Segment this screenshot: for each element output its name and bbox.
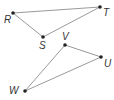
- label-s: S: [39, 40, 46, 51]
- point-v: [63, 43, 67, 47]
- point-w: [23, 89, 27, 93]
- label-u: U: [104, 58, 112, 69]
- point-u: [99, 55, 103, 59]
- triangle-rst: R S T: [4, 5, 110, 51]
- triangle-uvw-edges: [25, 45, 101, 91]
- triangle-rst-edges: [13, 7, 100, 37]
- triangle-uvw: V U W: [9, 31, 112, 96]
- triangle-diagram: R S T V U W: [0, 0, 114, 100]
- label-v: V: [62, 31, 70, 42]
- point-s: [41, 35, 45, 39]
- label-r: R: [4, 14, 11, 25]
- point-t: [98, 5, 102, 9]
- label-w: W: [9, 85, 20, 96]
- point-r: [11, 11, 15, 15]
- label-t: T: [103, 7, 110, 18]
